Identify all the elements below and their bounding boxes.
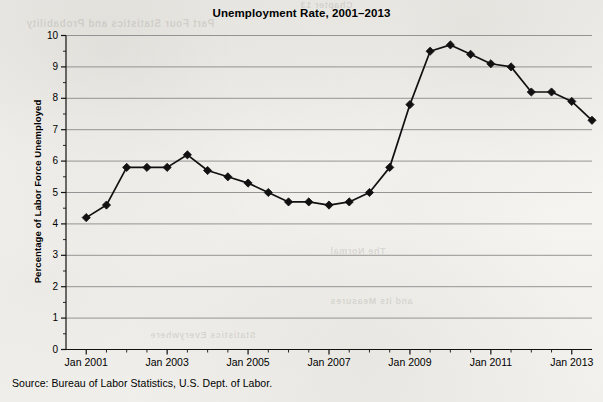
x-tick-label-jan-2011: Jan 2011 [470, 356, 512, 368]
x-tick-label-jan-2001: Jan 2001 [65, 356, 108, 368]
data-point-marker [406, 100, 414, 108]
data-point-marker [446, 41, 454, 49]
chart-plot-area [0, 0, 603, 402]
data-point-marker [325, 201, 333, 209]
line-chart-svg [0, 0, 603, 402]
x-tick-label-jan-2005: Jan 2005 [226, 356, 269, 368]
x-tick-label-jan-2003: Jan 2003 [146, 356, 189, 368]
series-line-unemployment-rate [86, 45, 592, 218]
data-point-marker [82, 214, 90, 222]
chart-source-note: Source: Bureau of Labor Statistics, U.S.… [12, 377, 272, 389]
data-point-marker [345, 198, 353, 206]
data-point-marker [264, 188, 272, 196]
data-point-marker [426, 47, 434, 55]
x-tick-label-jan-2007: Jan 2007 [307, 356, 350, 368]
data-point-marker [123, 163, 131, 171]
data-point-marker [163, 163, 171, 171]
data-point-marker [305, 198, 313, 206]
data-point-marker [467, 50, 475, 58]
x-tick-label-jan-2009: Jan 2009 [388, 356, 431, 368]
x-tick-label-jan-2013: Jan 2013 [550, 356, 593, 368]
data-point-marker [102, 201, 110, 209]
data-point-marker [547, 88, 555, 96]
data-point-marker [244, 179, 252, 187]
data-point-marker [284, 198, 292, 206]
data-point-marker [143, 163, 151, 171]
data-point-marker [224, 173, 232, 181]
